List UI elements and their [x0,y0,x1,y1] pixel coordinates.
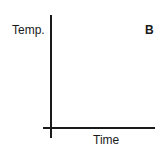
x-axis-line [43,127,155,129]
x-axis-label: Time [93,133,119,147]
y-axis-label: Temp. [12,23,45,37]
panel-label: B [145,23,154,37]
y-axis-line [50,15,52,138]
